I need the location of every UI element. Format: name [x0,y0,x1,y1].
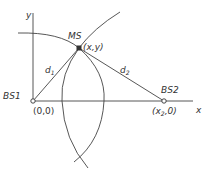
d1-label: d1 [45,65,55,76]
diagram-canvas: y x MS (x,y) BS1 (0,0) BS2 (x2,0) d1 d2 [0,0,209,177]
bs1-label: BS1 [3,91,21,101]
d1-line [33,48,79,101]
ms-label: MS [68,31,82,41]
bs1-coord: (0,0) [33,106,54,116]
d2-label: d2 [120,65,130,76]
bs2-label: BS2 [161,85,179,95]
bs2-marker [162,99,166,103]
ms-marker [77,46,82,51]
ms-coord: (x,y) [83,42,104,52]
bs1-marker [31,99,35,103]
range-arc-bs2 [18,33,104,162]
y-axis-label: y [25,10,32,20]
x-axis-label: x [195,105,202,115]
bs2-coord: (x2,0) [152,106,177,117]
